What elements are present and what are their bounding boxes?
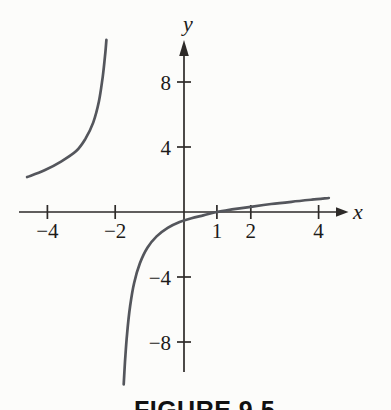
y-tick-label: 4 — [161, 136, 172, 160]
x-tick-label: 2 — [246, 219, 257, 243]
x-tick-label: 4 — [313, 219, 324, 243]
tick-labels: −4−212484−4−8 — [36, 71, 324, 355]
curve-branch-right-of-vertical-asymptote — [124, 198, 329, 384]
curve-branch-left-of-vertical-asymptote — [27, 40, 106, 177]
x-tick-label: −2 — [104, 219, 126, 243]
graph-canvas: −4−212484−4−8 y x — [0, 0, 391, 410]
y-tick-label: −4 — [149, 266, 172, 290]
x-axis-arrowhead — [336, 207, 349, 217]
figure: −4−212484−4−8 y x FIGURE 9.5 — [0, 0, 391, 410]
y-axis-label: y — [181, 11, 193, 36]
x-tick-label: −4 — [36, 219, 59, 243]
x-axis-label: x — [352, 199, 363, 224]
y-axis-arrowhead — [179, 40, 189, 56]
y-tick-label: 8 — [161, 71, 172, 95]
axes — [19, 40, 349, 372]
y-tick-label: −8 — [149, 331, 171, 355]
x-tick-label: 1 — [212, 219, 223, 243]
figure-caption: FIGURE 9.5 — [18, 396, 391, 410]
